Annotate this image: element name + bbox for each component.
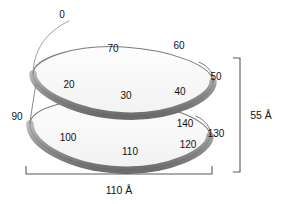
position-label: 30: [120, 91, 131, 101]
position-label: 60: [173, 41, 184, 51]
position-label: 70: [107, 44, 118, 54]
position-label: 130: [208, 129, 225, 139]
position-label: 40: [174, 87, 185, 97]
height-dimension-bracket: [233, 58, 240, 172]
position-label: 50: [210, 72, 221, 82]
helix-ribbon-drawing: [0, 0, 281, 204]
position-label: 140: [177, 119, 194, 129]
position-label: 90: [11, 112, 22, 122]
position-label: 100: [60, 133, 77, 143]
position-label: 120: [180, 140, 197, 150]
position-label: 0: [59, 10, 65, 20]
position-label: 110: [122, 147, 138, 157]
position-label: 20: [63, 80, 74, 90]
width-dimension-label: 110 Å: [106, 185, 133, 196]
height-dimension-label: 55 Å: [250, 110, 272, 121]
helix-figure: 020304050607090100110120130140 55 Å 110 …: [0, 0, 281, 204]
